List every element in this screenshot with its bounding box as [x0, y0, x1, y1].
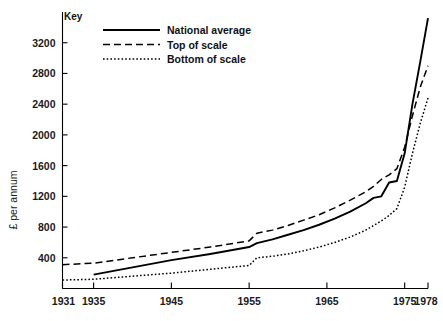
legend-label-national-average: National average	[167, 24, 251, 36]
y-tick-label-1600: 1600	[32, 160, 56, 172]
y-tick-label-3200: 3200	[32, 37, 56, 49]
x-tick-label-1978: 1978	[414, 295, 438, 307]
y-tick-label-2000: 2000	[32, 129, 56, 141]
y-tick-label-1200: 1200	[32, 190, 56, 202]
legend-title: Key	[64, 11, 83, 22]
y-axis-title: £ per annum	[7, 170, 19, 229]
y-tick-label-400: 400	[38, 252, 56, 264]
x-tick-label-1945: 1945	[160, 295, 184, 307]
x-tick-label-1931: 1931	[52, 295, 76, 307]
y-axis-title-text: £ per annum	[7, 170, 19, 229]
x-tick-label-1965: 1965	[315, 295, 339, 307]
line-chart: 400800120016002000240028003200 193119351…	[0, 0, 443, 321]
x-tick-label-1955: 1955	[237, 295, 261, 307]
y-tick-label-2400: 2400	[32, 98, 56, 110]
chart-svg: 400800120016002000240028003200 193119351…	[0, 0, 443, 321]
y-tick-label-800: 800	[38, 221, 56, 233]
legend-label-top-of-scale: Top of scale	[167, 39, 228, 51]
x-tick-label-1935: 1935	[82, 295, 106, 307]
x-tick-label-1975: 1975	[393, 295, 417, 307]
legend-label-bottom-of-scale: Bottom of scale	[167, 53, 246, 65]
y-tick-label-2800: 2800	[32, 67, 56, 79]
